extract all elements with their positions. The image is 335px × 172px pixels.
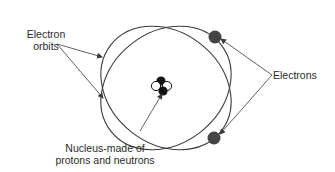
neutron-bottom [158,86,167,95]
electron-top [209,31,222,44]
nucleus-label-line2: protons and neutrons [30,154,180,166]
nucleus-arrow [140,94,162,131]
nucleus-label-line1: Nucleus-made of [30,142,180,154]
electron-orbits-label: Electron orbits [14,28,78,52]
electron-bottom [208,132,221,145]
electron-arrow-bottom [220,75,272,134]
electron-orbits-label-line2: orbits [14,40,78,52]
orbit-arrow-2 [57,44,103,98]
electrons-label: Electrons [273,69,317,81]
nucleus [151,76,171,95]
electron-orbits-label-line1: Electron [14,28,78,40]
nucleus-label: Nucleus-made of protons and neutrons [30,142,180,166]
